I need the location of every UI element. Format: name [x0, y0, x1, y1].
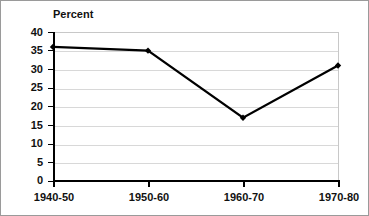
y-tick-mark-10 — [48, 144, 53, 145]
gridline-30 — [53, 70, 338, 71]
chart-title: Percent — [53, 8, 93, 20]
y-axis-line — [53, 32, 55, 182]
y-tick-label-5: 5 — [3, 157, 43, 168]
y-tick-label-20: 20 — [3, 101, 43, 112]
gridline-15 — [53, 126, 338, 127]
y-tick-mark-25 — [48, 88, 53, 89]
plot-area — [53, 32, 339, 181]
x-tick-label-4: 1970-80 — [294, 191, 369, 203]
y-tick-label-40: 40 — [3, 27, 43, 38]
y-tick-label-30: 30 — [3, 64, 43, 75]
y-tick-mark-35 — [48, 50, 53, 51]
y-tick-label-25: 25 — [3, 82, 43, 93]
x-tick-mark-4 — [338, 182, 340, 187]
y-tick-label-0: 0 — [3, 175, 43, 186]
x-tick-mark-2 — [148, 182, 150, 187]
y-tick-mark-20 — [48, 106, 53, 107]
gridline-5 — [53, 163, 338, 164]
x-tick-label-2: 1950-60 — [104, 191, 194, 203]
y-tick-mark-40 — [48, 32, 53, 33]
y-tick-mark-30 — [48, 69, 53, 70]
y-tick-label-35: 35 — [3, 45, 43, 56]
gridline-20 — [53, 107, 338, 108]
x-tick-mark-1 — [53, 182, 55, 187]
chart-figure: Percent 40 35 30 25 20 15 10 5 0 1940-50… — [0, 0, 369, 216]
x-axis-line — [53, 180, 340, 182]
gridline-25 — [53, 89, 338, 90]
x-tick-mark-3 — [243, 182, 245, 187]
y-tick-mark-15 — [48, 125, 53, 126]
y-tick-label-15: 15 — [3, 120, 43, 131]
y-tick-mark-5 — [48, 162, 53, 163]
gridline-10 — [53, 145, 338, 146]
x-tick-label-1: 1940-50 — [9, 191, 99, 203]
gridline-35 — [53, 51, 338, 52]
y-tick-label-10: 10 — [3, 138, 43, 149]
x-tick-label-3: 1960-70 — [199, 191, 289, 203]
